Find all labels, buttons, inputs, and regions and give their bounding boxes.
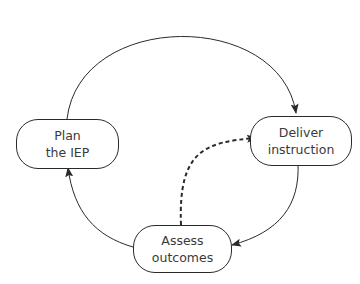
node-plan-the-iep: Plan the IEP — [16, 119, 119, 169]
arrow-plan-to-deliver — [67, 36, 296, 119]
node-label: the IEP — [46, 144, 90, 161]
arrow-deliver-to-assess — [232, 163, 298, 245]
node-label: Assess — [161, 232, 203, 249]
arrow-assess-to-deliver-dashed — [181, 138, 256, 225]
node-label: instruction — [268, 141, 335, 158]
node-deliver-instruction: Deliver instruction — [250, 116, 352, 166]
node-label: Plan — [54, 127, 81, 144]
node-label: outcomes — [152, 249, 213, 266]
node-label: Deliver — [279, 124, 324, 141]
arrow-assess-to-plan — [68, 168, 133, 247]
node-assess-outcomes: Assess outcomes — [133, 225, 232, 273]
